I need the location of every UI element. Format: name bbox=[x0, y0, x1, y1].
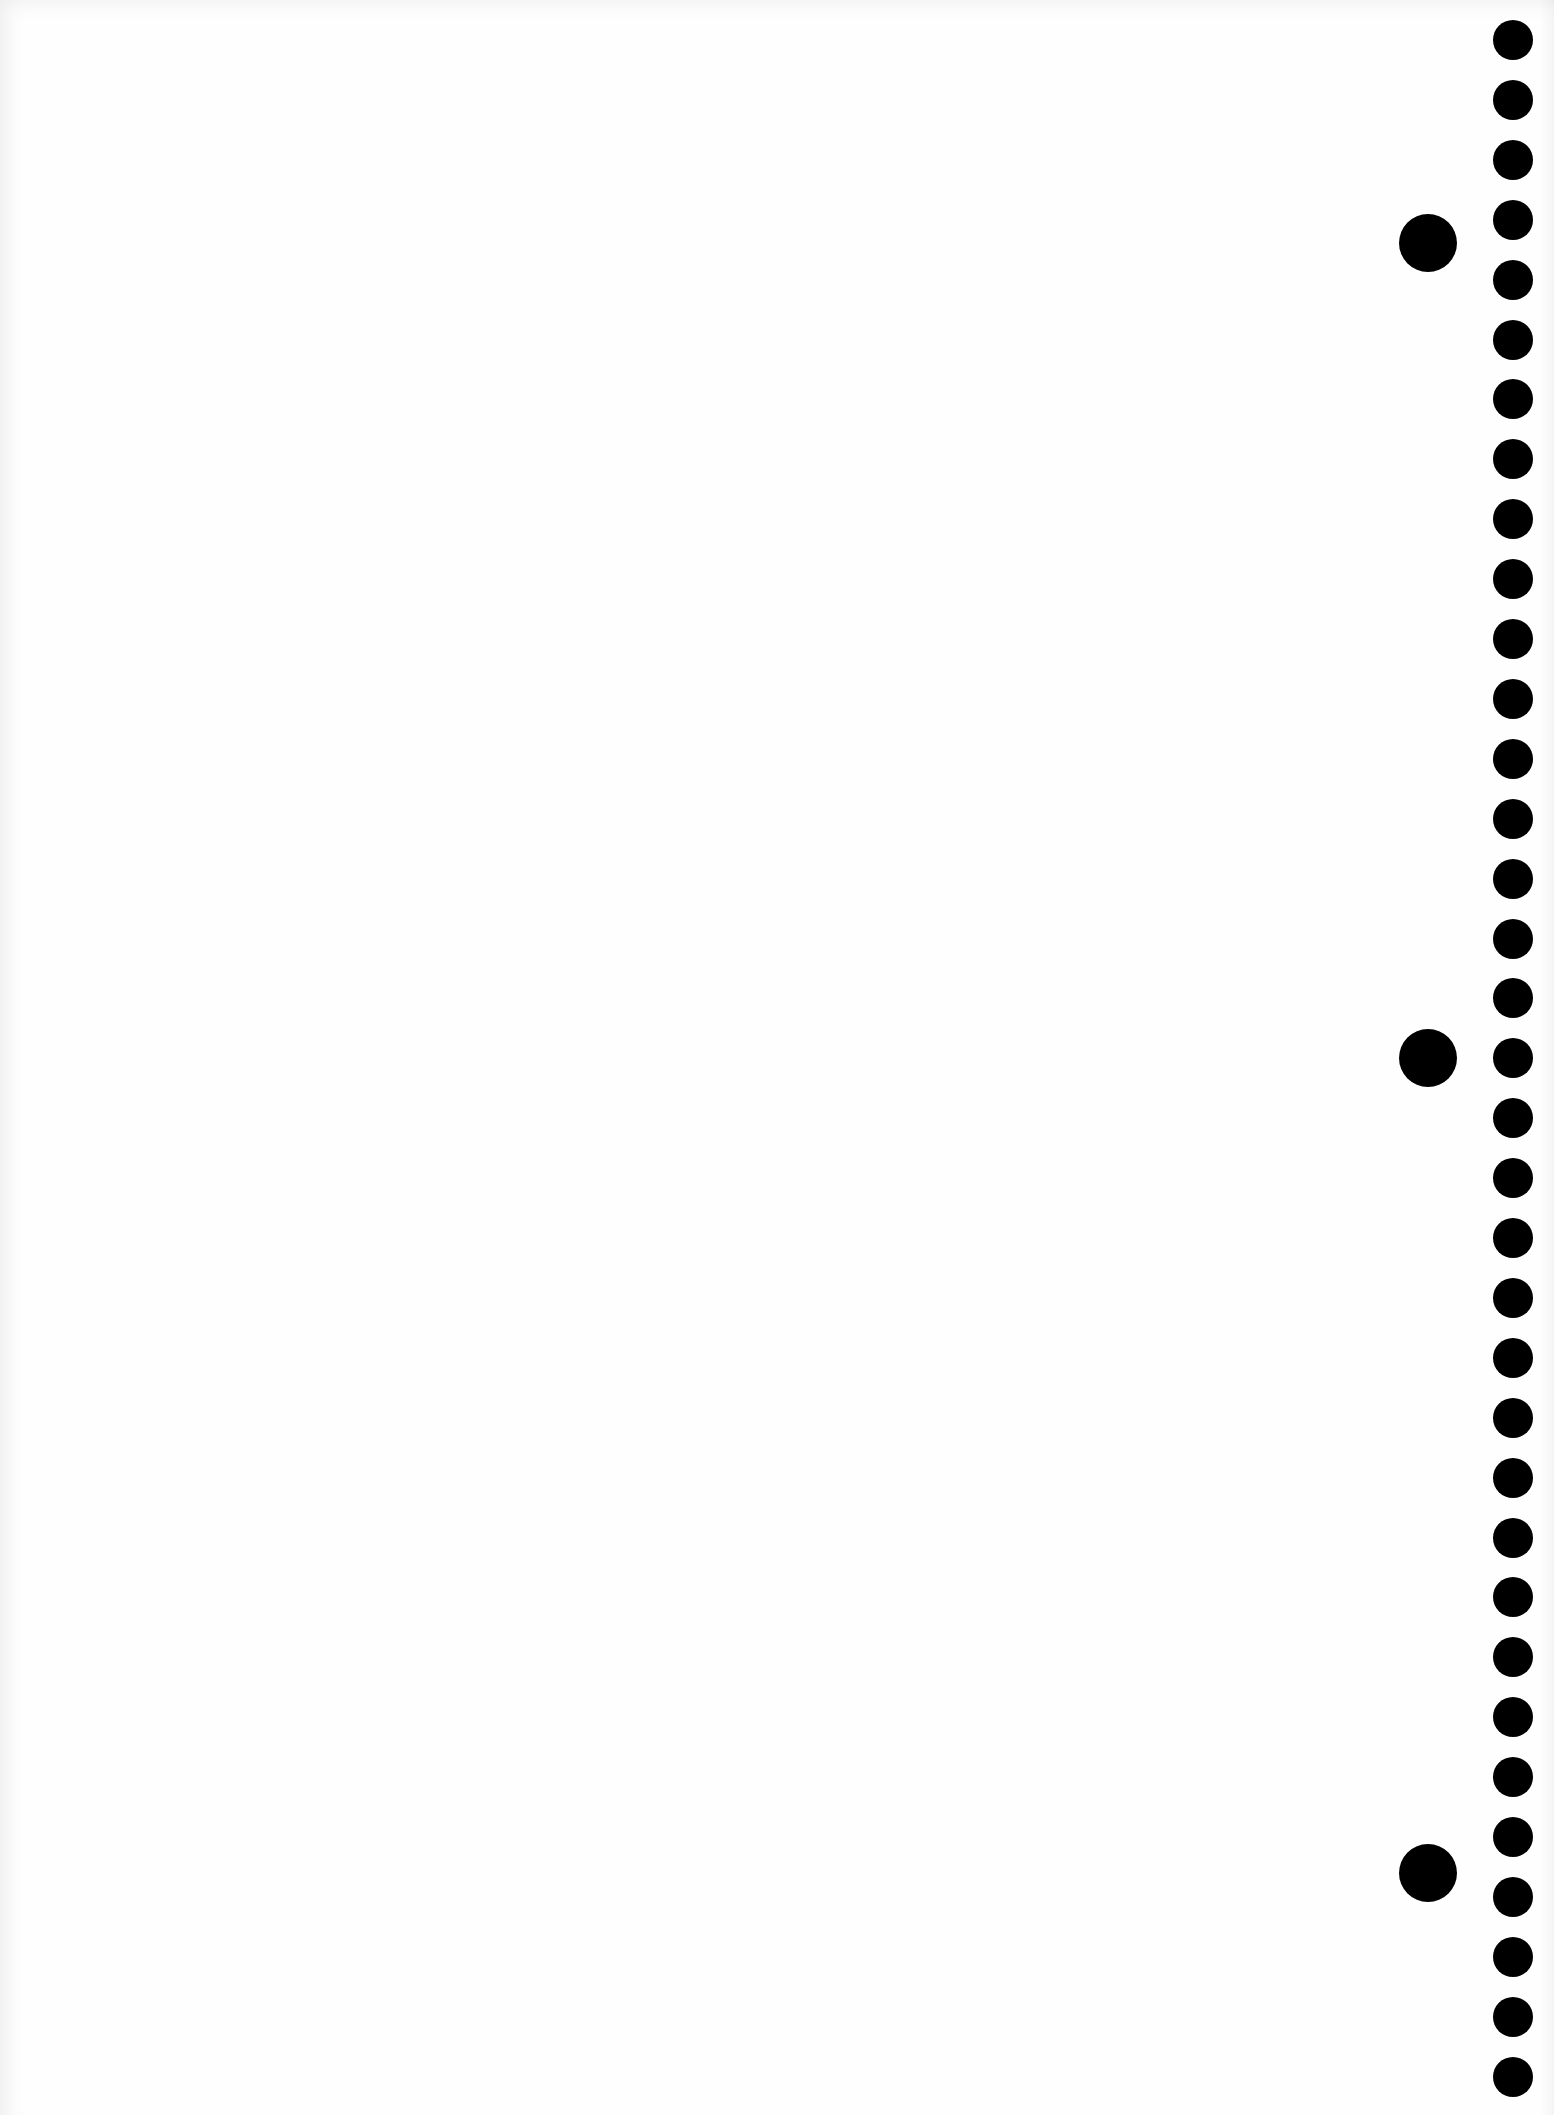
small-binding-hole bbox=[1493, 1038, 1533, 1078]
page-edge-shadow bbox=[1540, 0, 1554, 2115]
small-binding-hole bbox=[1493, 859, 1533, 899]
small-binding-hole bbox=[1493, 320, 1533, 360]
small-binding-hole bbox=[1493, 379, 1533, 419]
small-binding-hole bbox=[1493, 1158, 1533, 1198]
small-binding-hole bbox=[1493, 679, 1533, 719]
small-binding-hole bbox=[1493, 1637, 1533, 1677]
small-binding-hole bbox=[1493, 559, 1533, 599]
small-binding-hole bbox=[1493, 140, 1533, 180]
small-binding-hole bbox=[1493, 919, 1533, 959]
small-binding-hole bbox=[1493, 978, 1533, 1018]
small-binding-hole bbox=[1493, 1098, 1533, 1138]
small-binding-hole bbox=[1493, 2057, 1533, 2097]
small-binding-hole bbox=[1493, 799, 1533, 839]
small-binding-hole bbox=[1493, 1577, 1533, 1617]
small-binding-hole bbox=[1493, 1937, 1533, 1977]
small-binding-hole bbox=[1493, 200, 1533, 240]
small-binding-hole bbox=[1493, 439, 1533, 479]
small-binding-hole bbox=[1493, 1817, 1533, 1857]
small-binding-hole bbox=[1493, 20, 1533, 60]
small-binding-hole bbox=[1493, 1757, 1533, 1797]
small-binding-hole bbox=[1493, 260, 1533, 300]
small-binding-hole bbox=[1493, 1398, 1533, 1438]
notebook-page: Blank sheet of spiral-notebook paper wit… bbox=[0, 0, 1554, 2115]
small-binding-hole bbox=[1493, 1278, 1533, 1318]
small-binding-hole bbox=[1493, 619, 1533, 659]
large-binding-hole bbox=[1399, 214, 1457, 272]
small-binding-hole bbox=[1493, 739, 1533, 779]
small-binding-hole bbox=[1493, 1697, 1533, 1737]
large-binding-hole bbox=[1399, 1029, 1457, 1087]
small-binding-hole bbox=[1493, 1877, 1533, 1917]
large-binding-hole bbox=[1399, 1844, 1457, 1902]
small-binding-hole bbox=[1493, 1997, 1533, 2037]
small-binding-hole bbox=[1493, 1338, 1533, 1378]
small-binding-hole bbox=[1493, 1458, 1533, 1498]
small-binding-hole bbox=[1493, 1218, 1533, 1258]
small-binding-hole bbox=[1493, 1518, 1533, 1558]
small-binding-hole bbox=[1493, 80, 1533, 120]
small-binding-hole bbox=[1493, 499, 1533, 539]
